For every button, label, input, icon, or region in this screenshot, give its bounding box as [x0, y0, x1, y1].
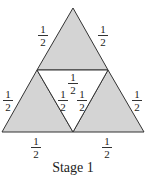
label-right-outer-edge: 12	[131, 89, 143, 112]
label-top-right-edge: 12	[97, 24, 109, 47]
label-bottom-left-edge: 12	[30, 136, 42, 159]
label-left-inner-edge: 12	[57, 89, 69, 112]
stage-caption: Stage 1	[0, 160, 146, 176]
label-left-outer-edge: 12	[2, 89, 14, 112]
label-bottom-right-edge: 12	[101, 136, 113, 159]
label-top-left-edge: 12	[37, 24, 49, 47]
label-right-inner-edge: 12	[76, 89, 88, 112]
